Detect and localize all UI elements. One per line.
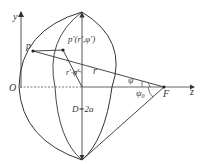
diameter-label: D=2a — [71, 104, 94, 114]
parabolic-reflector-diagram: y z O p p′(r′,φ′) F r′·φ′ r ψ ψ0 D=2a — [0, 0, 204, 164]
edge-ray — [82, 87, 164, 160]
focus-label: F — [162, 88, 170, 99]
point-p-prime — [61, 48, 64, 51]
point-p-prime-label: p′(r′,φ′) — [67, 34, 95, 44]
z-axis-label: z — [189, 86, 194, 97]
r-label: r — [93, 65, 97, 76]
psi0-arc — [148, 87, 153, 97]
point-p-label: p — [25, 40, 31, 51]
y-axis-label: y — [12, 11, 18, 22]
psi0-label: ψ0 — [136, 88, 145, 99]
origin-label: O — [9, 82, 16, 93]
point-p — [31, 49, 34, 52]
psi-arc — [148, 83, 150, 87]
r-prime-phi-label: r′·φ′ — [66, 68, 79, 77]
psi-label: ψ — [128, 75, 134, 85]
p-to-pprime — [33, 50, 63, 51]
